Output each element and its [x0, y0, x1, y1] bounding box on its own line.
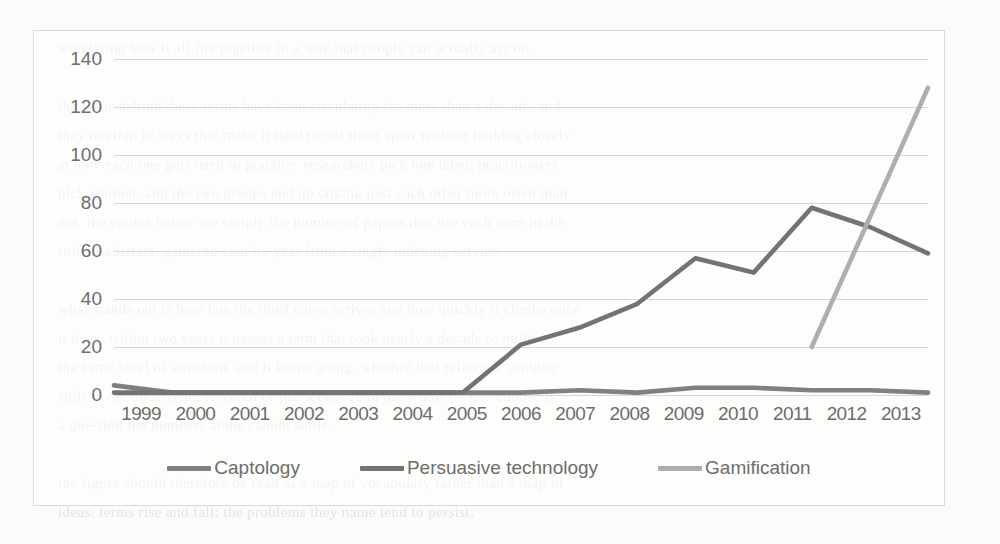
- legend-swatch-icon: [658, 466, 702, 471]
- series-line-gamification: [812, 88, 928, 347]
- legend-item-gamification[interactable]: Gamification: [658, 457, 811, 479]
- gridline: [114, 395, 928, 396]
- x-axis-tick-labels: 1999200020012002200320042005200620072008…: [114, 403, 928, 425]
- x-axis-tick-label: 2000: [168, 403, 222, 425]
- x-axis-tick-label: 2013: [874, 403, 928, 425]
- x-axis-tick-label: 2003: [331, 403, 385, 425]
- x-axis-tick-label: 2011: [765, 403, 819, 425]
- legend-item-captology[interactable]: Captology: [167, 457, 300, 479]
- legend-swatch-icon: [167, 466, 211, 471]
- y-axis-tick-label: 100: [70, 144, 102, 166]
- legend-label: Captology: [214, 457, 300, 479]
- plot-area: 020406080100120140: [114, 59, 928, 395]
- x-axis-tick-label: 2001: [223, 403, 277, 425]
- x-axis-tick-label: 2007: [548, 403, 602, 425]
- chart-figure: 020406080100120140 199920002001200220032…: [33, 30, 945, 506]
- series-lines: [114, 59, 928, 395]
- legend-label: Persuasive technology: [407, 457, 598, 479]
- y-axis-tick-label: 140: [70, 48, 102, 70]
- x-axis-tick-label: 2004: [385, 403, 439, 425]
- legend-item-persuasive-technology[interactable]: Persuasive technology: [360, 457, 598, 479]
- y-axis-tick-label: 120: [70, 96, 102, 118]
- x-axis-tick-label: 2002: [277, 403, 331, 425]
- x-axis-tick-label: 2008: [602, 403, 656, 425]
- x-axis-tick-label: 2009: [657, 403, 711, 425]
- legend-swatch-icon: [360, 466, 404, 471]
- y-axis-tick-label: 20: [81, 336, 102, 358]
- x-axis-tick-label: 2006: [494, 403, 548, 425]
- series-line-persuasive-technology: [114, 208, 928, 393]
- x-axis-tick-label: 2005: [440, 403, 494, 425]
- plot-wrapper: 020406080100120140 199920002001200220032…: [34, 31, 944, 505]
- y-axis-tick-label: 40: [81, 288, 102, 310]
- x-axis-tick-label: 2010: [711, 403, 765, 425]
- legend-label: Gamification: [705, 457, 811, 479]
- x-axis-tick-label: 2012: [819, 403, 873, 425]
- y-axis-tick-label: 60: [81, 240, 102, 262]
- chart-legend: CaptologyPersuasive technologyGamificati…: [34, 457, 944, 479]
- x-axis-tick-label: 1999: [114, 403, 168, 425]
- y-axis-tick-label: 80: [81, 192, 102, 214]
- y-axis-tick-label: 0: [91, 384, 102, 406]
